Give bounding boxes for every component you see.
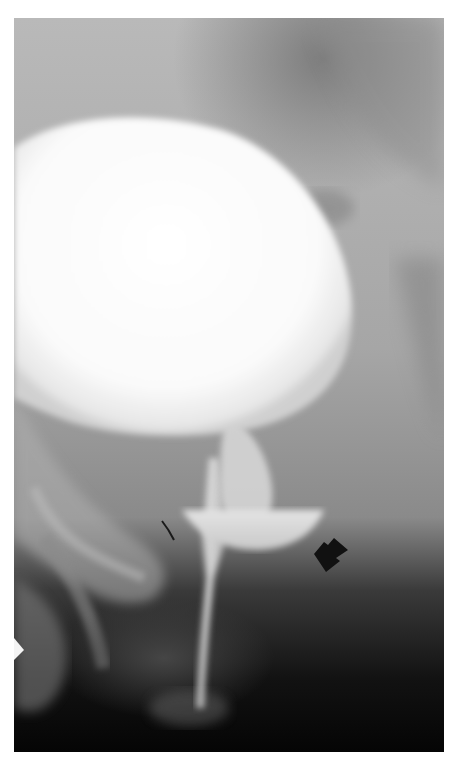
radiograph-graphic bbox=[14, 18, 444, 752]
radiograph-image bbox=[14, 18, 444, 752]
